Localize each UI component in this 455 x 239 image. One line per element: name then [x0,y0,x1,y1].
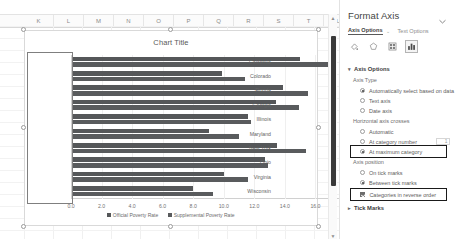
radio-on-tick-marks[interactable] [360,170,365,175]
bar-wisconsin-series-2[interactable] [72,192,213,197]
chart-title[interactable]: Chart Title [24,38,318,47]
plot-area[interactable] [71,55,346,199]
resize-handle-top-right[interactable] [316,27,321,32]
axis-options-chart-icon[interactable] [405,40,418,53]
bar-wisconsin-series-1[interactable] [72,186,193,191]
bar-illinois-series-1[interactable] [72,114,248,119]
bar-maryland-series-1[interactable] [72,129,209,134]
group-label-horizontal-axis-crosses: Horizontal axis crosses [353,118,410,124]
tab-caret-icon[interactable]: ⌄ [386,28,390,34]
radio-text-axis[interactable] [360,98,365,103]
bar-california-series-2[interactable] [72,62,335,67]
section-header-axis-options[interactable]: ▾Axis Options [348,66,390,72]
tab-text-options[interactable]: Text Options [398,28,429,34]
category-label-colorado[interactable]: Colorado [250,74,271,79]
bar-maryland-series-2[interactable] [72,134,239,139]
chart-category-row [71,127,346,141]
resize-handle-bottom-center[interactable] [168,224,173,229]
chart-category-row [71,185,346,199]
category-label-new-york[interactable]: New York [249,146,271,151]
option-on-tick-marks[interactable]: On tick marks [360,168,403,177]
category-label-illinois[interactable]: Illinois [257,117,271,122]
radio-automatic[interactable] [360,129,365,134]
scroll-down-arrow-icon[interactable]: ▼ [330,232,336,239]
x-axis-tick-label: 4.0 [129,203,136,209]
option-at-maximum-category[interactable]: At maximum category [360,147,422,156]
resize-handle-bottom-right[interactable] [316,224,321,229]
legend-swatch-icon [107,213,110,216]
radio-at-category-number[interactable] [360,139,365,144]
category-label-florida[interactable]: Florida [255,88,271,93]
effects-icon[interactable] [367,40,380,53]
bar-florida-series-1[interactable] [72,85,283,90]
option-automatic[interactable]: Automatic [360,127,393,136]
radio-date-axis[interactable] [360,108,365,113]
checkbox-categories-in-reverse-order[interactable] [360,192,365,197]
legend-item-1[interactable]: Official Poverty Rate [107,212,158,218]
chart-category-row [71,84,346,98]
option-label: Categories in reverse order [369,192,436,198]
legend-label: Official Poverty Rate [113,212,158,218]
category-label-virginia[interactable]: Virginia [254,175,271,180]
option-at-category-number[interactable]: At category number [360,137,417,146]
option-label: Date axis [369,108,392,114]
input-at-category-number[interactable]: 1 [436,138,450,145]
chevron-down-icon[interactable] [438,12,447,21]
bar-florida-series-2[interactable] [72,91,308,96]
resize-handle-middle-left[interactable] [21,125,26,130]
bar-new-york-series-1[interactable] [72,143,277,148]
bar-colorado-series-2[interactable] [72,77,245,82]
option-date-axis[interactable]: Date axis [360,106,392,115]
resize-handle-top-center[interactable] [168,27,173,32]
vertical-scrollbar[interactable]: ▲ ▼ [328,14,337,239]
bar-virginia-series-2[interactable] [72,177,248,182]
legend-item-2[interactable]: Supplemental Poverty Rate [168,212,234,218]
bar-virginia-series-1[interactable] [72,172,224,177]
option-categories-in-reverse-order[interactable]: Categories in reverse order [360,190,436,199]
chart-object[interactable]: Chart Title 0.02.04.06.08.010.012.014.01… [24,30,318,226]
option-text-axis[interactable]: Text axis [360,96,390,105]
category-label-wisconsin[interactable]: Wisconsin [247,189,271,194]
radio-automatically-select-based-on-data[interactable] [360,88,365,93]
category-axis-selection-box[interactable] [27,52,73,204]
scroll-up-arrow-icon[interactable]: ▲ [330,14,336,21]
pane-title: Format Axis [348,10,399,21]
category-label-georgia[interactable]: Georgia [253,103,271,108]
pane-icon-toolbar[interactable] [348,40,418,53]
scrollbar-thumb[interactable] [331,36,336,186]
chart-category-row [71,113,346,127]
section-header-label: Axis Options [354,66,390,72]
option-label: Text axis [369,98,390,104]
bar-new-york-series-2[interactable] [72,149,306,154]
category-label-ohio[interactable]: Ohio [260,160,271,165]
category-label-california[interactable]: California [249,60,271,65]
option-automatically-select-based-on-data[interactable]: Automatically select based on data [360,86,454,95]
excel-chart-format-axis-screen: KLMNOPQRSTU Chart Title 0.02.04.06.08.01… [0,0,455,239]
chart-category-row [71,98,346,112]
radio-at-maximum-category[interactable] [360,149,365,154]
bar-ohio-series-1[interactable] [72,157,265,162]
pane-tabs[interactable]: Axis Options ⌄ Text Options [348,27,429,35]
bar-colorado-series-1[interactable] [72,71,222,76]
chart-legend[interactable]: Official Poverty RateSupplemental Povert… [24,212,318,218]
fill-line-icon[interactable] [348,40,361,53]
x-axis-tick-label: 8.0 [190,203,197,209]
resize-handle-bottom-left[interactable] [21,224,26,229]
chart-category-row [71,141,346,155]
size-properties-icon[interactable] [386,40,399,53]
category-label-maryland[interactable]: Maryland [250,132,271,137]
bar-ohio-series-2[interactable] [72,163,268,168]
option-between-tick-marks[interactable]: Between tick marks [360,178,417,187]
tab-axis-options[interactable]: Axis Options [348,27,383,35]
x-axis-tick-label: 14.0 [280,203,290,209]
chart-category-row [71,55,346,69]
resize-handle-middle-right[interactable] [316,125,321,130]
resize-handle-top-left[interactable] [21,27,26,32]
section-header-tick-marks[interactable]: ▸Tick Marks [348,205,384,211]
option-label: On tick marks [369,170,403,176]
x-axis-tick-label: 2.0 [98,203,105,209]
bar-illinois-series-2[interactable] [72,120,251,125]
bar-georgia-series-1[interactable] [72,100,276,105]
radio-between-tick-marks[interactable] [360,180,365,185]
chart-category-row [71,156,346,170]
